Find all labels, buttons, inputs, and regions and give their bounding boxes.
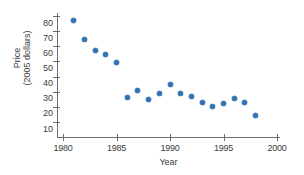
x-tick-mark <box>170 134 171 141</box>
data-point <box>82 37 87 42</box>
x-tick-label: 2000 <box>257 144 297 153</box>
y-axis-title-line-2: (2005 dollars) <box>22 3 32 113</box>
y-tick-mark <box>53 107 60 108</box>
data-point <box>125 95 130 100</box>
data-point <box>200 100 205 105</box>
x-tick-label: 1980 <box>43 144 83 153</box>
scatter-plot-figure: 1020304050607080 19801985199019952000 Pr… <box>0 0 304 175</box>
x-tick-mark <box>277 134 278 141</box>
x-axis-spine <box>57 137 280 138</box>
x-axis-title: Year <box>57 157 280 167</box>
data-point <box>71 18 76 23</box>
y-axis-title: Price (2005 dollars) <box>12 3 32 113</box>
data-point <box>103 52 108 57</box>
y-tick-mark <box>53 31 60 32</box>
data-point <box>210 104 215 109</box>
y-axis-title-line-1: Price <box>12 3 22 113</box>
y-tick-mark <box>53 61 60 62</box>
y-tick-mark <box>53 46 60 47</box>
x-tick-mark <box>63 134 64 141</box>
data-point <box>221 101 226 106</box>
y-tick-mark <box>53 16 60 17</box>
y-tick-mark <box>53 92 60 93</box>
x-tick-label: 1985 <box>97 144 137 153</box>
data-point <box>178 91 183 96</box>
y-tick-mark <box>53 77 60 78</box>
data-point <box>232 96 237 101</box>
data-point <box>168 82 173 87</box>
x-tick-mark <box>224 134 225 141</box>
data-point <box>146 97 151 102</box>
data-point <box>93 48 98 53</box>
data-point <box>114 60 119 65</box>
x-tick-mark <box>117 134 118 141</box>
data-point <box>189 94 194 99</box>
data-point <box>253 113 258 118</box>
y-tick-mark <box>53 122 60 123</box>
x-tick-label: 1990 <box>150 144 190 153</box>
x-tick-label: 1995 <box>204 144 244 153</box>
data-point <box>242 100 247 105</box>
data-point <box>157 91 162 96</box>
data-point <box>135 88 140 93</box>
plot-area: 1020304050607080 19801985199019952000 Pr… <box>0 0 304 175</box>
